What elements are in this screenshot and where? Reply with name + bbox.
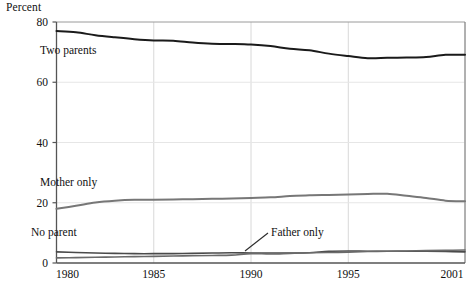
y-tick-label-20: 20 bbox=[14, 197, 48, 209]
y-tick-label-40: 40 bbox=[14, 137, 48, 149]
series-label-two-parents: Two parents bbox=[40, 44, 96, 56]
series-label-no-parent: No parent bbox=[31, 226, 77, 238]
y-tick-label-60: 60 bbox=[14, 76, 48, 88]
x-tick-label-2001: 2001 bbox=[441, 268, 464, 280]
x-tick-label-1980: 1980 bbox=[56, 268, 79, 280]
series-line-two-parents bbox=[57, 31, 466, 58]
series-label-mother-only: Mother only bbox=[40, 176, 97, 188]
series-line-mother-only bbox=[57, 194, 466, 209]
y-tick-label-80: 80 bbox=[14, 16, 48, 28]
x-tick-label-1985: 1985 bbox=[142, 268, 165, 280]
father-only-leader-line bbox=[245, 233, 268, 251]
percent-line-chart: Percent 020406080 19801985199019952001 T… bbox=[0, 0, 474, 289]
x-tick-label-1995: 1995 bbox=[337, 268, 360, 280]
series-label-father-only: Father only bbox=[271, 226, 324, 238]
x-tick-label-1990: 1990 bbox=[240, 268, 263, 280]
y-tick-label-0: 0 bbox=[14, 257, 48, 269]
